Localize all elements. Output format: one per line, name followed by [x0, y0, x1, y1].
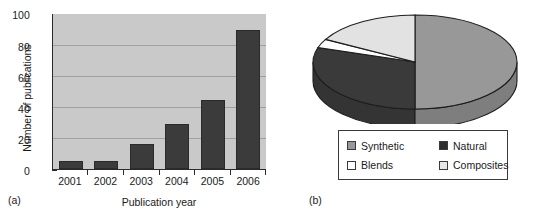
x-tick-label-2003: 2003 — [123, 175, 159, 187]
legend-label-composites: Composites — [453, 160, 508, 171]
bar-slot-2005 — [195, 14, 230, 169]
bar-2004[interactable] — [165, 124, 189, 169]
x-axis-title: Publication year — [52, 196, 266, 208]
bar-2006[interactable] — [236, 30, 260, 169]
bar-slot-2004 — [160, 14, 195, 169]
panel-b-pie-chart: Synthetic Natural Blends Composites (b) — [300, 0, 535, 223]
bar-2005[interactable] — [201, 100, 225, 169]
x-tick-label-2001: 2001 — [52, 175, 88, 187]
legend-label-blends: Blends — [361, 160, 393, 171]
figure-container: 0 20 40 60 80 100 — [0, 0, 535, 223]
bar-2003[interactable] — [130, 144, 154, 169]
legend-item-natural[interactable]: Natural — [439, 141, 508, 152]
bar-chart-plot-area — [52, 14, 266, 170]
x-tick-label-2005: 2005 — [195, 175, 231, 187]
pie-chart-graphic — [308, 6, 522, 124]
bar-slot-2001 — [53, 14, 88, 169]
legend-swatch-synthetic — [347, 141, 356, 150]
bar-slot-2003 — [124, 14, 159, 169]
panel-a-bar-chart: 0 20 40 60 80 100 — [0, 0, 300, 223]
legend-swatch-blends — [347, 161, 356, 170]
panel-b-caption: (b) — [309, 194, 322, 206]
pie-legend: Synthetic Natural Blends Composites — [338, 130, 508, 180]
legend-swatch-natural — [439, 141, 448, 150]
bar-slot-2002 — [89, 14, 124, 169]
bar-2002[interactable] — [94, 161, 118, 169]
bar-slot-2006 — [231, 14, 266, 169]
bar-2001[interactable] — [59, 161, 83, 169]
pie-svg — [308, 6, 522, 124]
legend-swatch-composites — [439, 161, 448, 170]
panel-a-caption: (a) — [8, 194, 21, 206]
y-tick-label-100: 100 — [0, 10, 30, 21]
legend-label-natural: Natural — [453, 141, 487, 152]
x-tick-label-2006: 2006 — [230, 175, 266, 187]
legend-item-blends[interactable]: Blends — [347, 160, 439, 171]
x-axis-tick-labels: 2001 2002 2003 2004 2005 2006 — [52, 175, 266, 187]
bar-series — [53, 14, 266, 169]
legend-label-synthetic: Synthetic — [361, 141, 404, 152]
legend-item-composites[interactable]: Composites — [439, 160, 508, 171]
x-tick-label-2004: 2004 — [159, 175, 195, 187]
y-axis-title: Number of publications — [21, 23, 33, 173]
legend-item-synthetic[interactable]: Synthetic — [347, 141, 439, 152]
y-tick-mark-0 — [52, 170, 57, 171]
x-tick-label-2002: 2002 — [88, 175, 124, 187]
